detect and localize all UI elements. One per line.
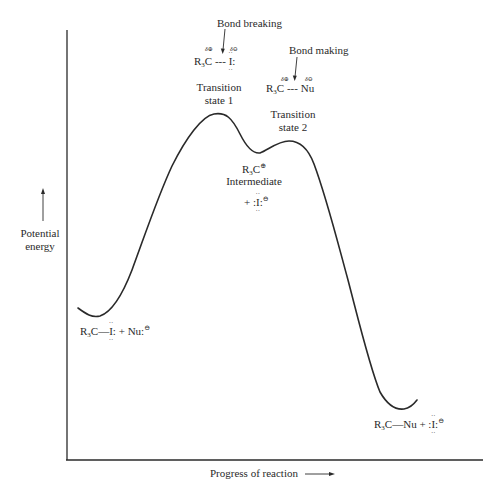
bond-making-arrow-icon: [293, 57, 297, 81]
plus-sign: +: [419, 418, 425, 430]
bond-breaking-arrow-icon: [221, 29, 225, 54]
ts2-line2: state 2: [264, 121, 322, 134]
lone-pair: ··: [109, 320, 114, 326]
y-label-line2: energy: [14, 240, 66, 253]
negative-charge: ⊖: [263, 195, 269, 203]
intermediate-label: Intermediate: [222, 175, 286, 188]
iodine-atom: ··I··: [229, 55, 233, 68]
transition-state-1-label: Transition state 1: [190, 81, 248, 107]
single-bond: —: [98, 325, 109, 337]
intermediate-iodide: + :··I··:⊖: [244, 193, 269, 209]
partial-bond: ---: [287, 82, 298, 94]
ts1-line2: state 1: [190, 94, 248, 107]
ts1-species: R3C --- ··I··:: [194, 55, 235, 72]
single-bond: —: [392, 418, 403, 430]
transition-state-2-label: Transition state 2: [264, 108, 322, 134]
lone-pair: ··: [431, 413, 436, 419]
right-arrow-icon: [305, 472, 335, 476]
nucleophile: Nu: [403, 418, 416, 430]
lone-pair: ··: [431, 430, 436, 436]
lone-pair: ··: [109, 337, 114, 343]
nucleophile: Nu: [301, 82, 314, 94]
nucleophile: Nu: [128, 325, 141, 337]
y-label-line1: Potential: [14, 227, 66, 240]
reactants-label: R3C—··I··: + Nu:⊖: [80, 322, 150, 342]
up-arrow-icon: [41, 188, 45, 221]
carbon: C: [205, 55, 212, 67]
plus-sign: +: [244, 196, 250, 208]
ts2-line1: Transition: [264, 108, 322, 121]
x-axis-label: Progress of reaction: [210, 467, 298, 480]
bond-breaking-label: Bond breaking: [217, 17, 282, 30]
delta-minus-label: δ⊖: [230, 45, 238, 52]
lone-pair: ··: [228, 67, 233, 73]
plus-sign: +: [119, 325, 125, 337]
bond-making-label: Bond making: [289, 44, 349, 57]
lone-pair: ··: [256, 208, 261, 214]
energy-curve: [78, 114, 417, 410]
iodine-atom: ··I··: [256, 196, 260, 209]
ts1-line1: Transition: [190, 81, 248, 94]
delta-plus-label: δ⊕: [205, 45, 213, 52]
reaction-energy-diagram: Bond breaking R3C --- ··I··: δ⊕ δ⊖ Trans…: [0, 0, 498, 493]
negative-charge: ⊖: [438, 417, 444, 425]
delta-plus-label: δ⊕: [281, 75, 289, 82]
iodine-atom: ··I··: [431, 418, 435, 431]
partial-bond: ---: [215, 55, 226, 67]
iodine-atom: ··I··: [109, 325, 113, 338]
ts2-species: R3C --- Nu: [266, 82, 314, 99]
products-label: R3C—Nu + :··I··:⊖: [374, 415, 444, 435]
positive-charge: ⊕: [260, 162, 266, 170]
lone-pair: ··: [256, 191, 261, 197]
negative-charge: ⊖: [144, 324, 150, 332]
y-axis-label: Potential energy: [14, 227, 66, 253]
carbon: C: [277, 82, 284, 94]
delta-minus-label: δ⊖: [305, 75, 313, 82]
